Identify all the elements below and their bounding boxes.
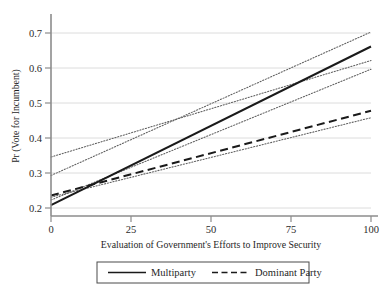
x-tick-label: 25	[126, 224, 137, 235]
y-tick-label: 0.2	[29, 203, 42, 214]
x-axis-title: Evaluation of Government's Efforts to Im…	[101, 239, 321, 250]
legend-label-multiparty: Multiparty	[151, 267, 197, 278]
y-tick-label: 0.3	[29, 168, 42, 179]
y-tick-label: 0.4	[29, 133, 43, 144]
y-tick-label: 0.7	[29, 28, 42, 39]
x-tick-label: 0	[48, 224, 53, 235]
y-axis-title: Pr (Vote for Incumbent)	[10, 69, 22, 163]
y-tick-label: 0.5	[29, 98, 42, 109]
chart-legend: Multiparty Dominant Party	[97, 262, 323, 283]
y-tick-label: 0.6	[29, 63, 42, 74]
legend-label-dominant-party: Dominant Party	[255, 267, 323, 278]
x-tick-label: 50	[206, 224, 217, 235]
x-tick-label: 75	[286, 224, 297, 235]
chart-svg: 0.7 0.6 0.5 0.4 0.3 0.2 0 25 50 75 100 E…	[0, 0, 389, 288]
chart-figure: 0.7 0.6 0.5 0.4 0.3 0.2 0 25 50 75 100 E…	[0, 0, 389, 288]
x-tick-label: 100	[363, 224, 379, 235]
